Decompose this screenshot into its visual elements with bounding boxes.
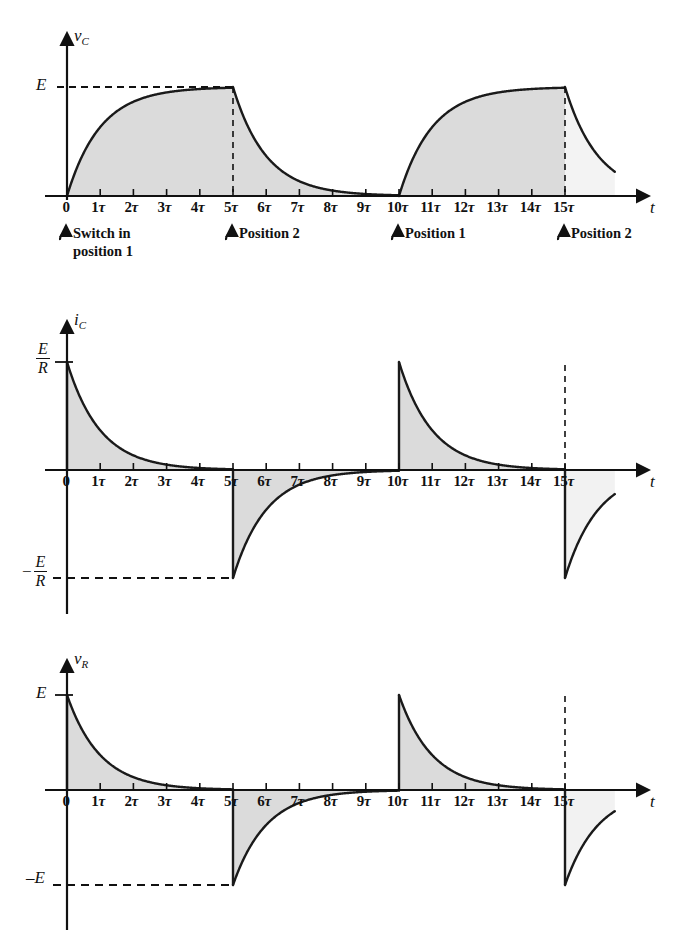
x-tick-label: 12τ <box>453 474 474 489</box>
frac-denominator: R <box>36 359 50 376</box>
panel-vc-level-E-label: E <box>36 76 46 93</box>
x-tick-label: 14τ <box>520 474 541 489</box>
x-tick-label: 2τ <box>124 794 138 809</box>
x-tick-label: 15τ <box>553 200 574 215</box>
x-tick-label: 14τ <box>520 200 541 215</box>
x-tick-label: 9τ <box>357 794 371 809</box>
minus-sign: − <box>22 563 34 580</box>
panel-vr-y-axis-label: vR <box>74 650 88 670</box>
x-tick-label: 0 <box>63 200 70 215</box>
x-tick-label: 6τ <box>257 474 271 489</box>
x-tick-label: 14τ <box>520 794 541 809</box>
annotation-arrow <box>226 226 232 240</box>
x-tick-label: 7τ <box>290 794 304 809</box>
annotation-arrow <box>392 226 398 240</box>
x-tick-label: 5τ <box>224 474 238 489</box>
x-tick-label: 1τ <box>91 794 105 809</box>
annotation-line: Position 2 <box>239 226 300 241</box>
x-tick-label: 15τ <box>553 794 574 809</box>
x-tick-label: 5τ <box>224 200 238 215</box>
panel-vc-area-fill-trailing <box>565 87 615 196</box>
panel-ic-x-axis-label: t <box>650 473 655 490</box>
panel-ic-y-axis-label: iC <box>74 311 86 331</box>
x-tick-label: 10τ <box>387 200 408 215</box>
frac-denominator: R <box>34 572 48 589</box>
x-tick-label: 10τ <box>387 474 408 489</box>
x-tick-label: 9τ <box>357 474 371 489</box>
panel-vc-x-axis-label: t <box>650 199 655 216</box>
x-tick-label: 7τ <box>290 200 304 215</box>
x-tick-label: 15τ <box>553 474 574 489</box>
x-tick-label: 2τ <box>124 474 138 489</box>
panel-vr-area-fill <box>399 695 565 790</box>
x-tick-label: 13τ <box>487 474 508 489</box>
x-tick-label: 8τ <box>324 200 338 215</box>
x-tick-label: 6τ <box>257 794 271 809</box>
x-tick-label: 4τ <box>191 200 205 215</box>
panel-ic-level-neg-E-over-R-label: − E R <box>22 554 47 589</box>
annotation-label: Position 1 <box>405 226 466 241</box>
frac-numerator: E <box>34 554 48 572</box>
panel-vr-level-E-label: E <box>36 684 46 701</box>
x-tick-label: 12τ <box>453 794 474 809</box>
annotation-line: Position 2 <box>571 226 632 241</box>
x-tick-label: 1τ <box>91 200 105 215</box>
panel-vr-area-fill <box>67 695 233 790</box>
panel-ic-area-fill <box>67 362 233 470</box>
x-tick-label: 11τ <box>420 794 440 809</box>
x-tick-label: 11τ <box>420 474 440 489</box>
x-tick-label: 4τ <box>191 794 205 809</box>
x-tick-label: 0 <box>63 474 70 489</box>
x-tick-label: 13τ <box>487 794 508 809</box>
panel-vr-level-neg-E-label: –E <box>26 869 45 886</box>
annotation-line: position 1 <box>73 244 133 259</box>
x-tick-label: 5τ <box>224 794 238 809</box>
x-tick-label: 10τ <box>387 794 408 809</box>
x-tick-label: 9τ <box>357 200 371 215</box>
frac-numerator: E <box>36 341 50 359</box>
x-tick-label: 8τ <box>324 794 338 809</box>
x-tick-label: 11τ <box>420 200 440 215</box>
x-tick-label: 7τ <box>290 474 304 489</box>
x-tick-label: 6τ <box>257 200 271 215</box>
x-tick-label: 3τ <box>158 794 172 809</box>
x-tick-label: 4τ <box>191 474 205 489</box>
x-tick-label: 8τ <box>324 474 338 489</box>
x-tick-label: 3τ <box>158 474 172 489</box>
x-tick-label: 13τ <box>487 200 508 215</box>
x-tick-label: 0 <box>63 794 70 809</box>
annotation-label: Switch inposition 1 <box>73 226 133 258</box>
x-tick-label: 12τ <box>453 200 474 215</box>
figure-root: vC E t 01τ2τ3τ4τ5τ6τ7τ8τ9τ10τ11τ12τ13τ14… <box>0 0 676 942</box>
x-tick-label: 2τ <box>124 200 138 215</box>
annotation-label: Position 2 <box>571 226 632 241</box>
x-tick-label: 1τ <box>91 474 105 489</box>
panel-ic-level-E-over-R-label: E R <box>36 341 50 376</box>
panel-vc-y-axis-label: vC <box>74 27 89 47</box>
panel-vr-x-axis-label: t <box>650 793 655 810</box>
annotation-arrow <box>60 226 66 240</box>
annotation-line: Switch in <box>73 226 133 241</box>
annotation-label: Position 2 <box>239 226 300 241</box>
panel-vc-area-fill <box>67 87 565 196</box>
x-tick-label: 3τ <box>158 200 172 215</box>
annotation-line: Position 1 <box>405 226 466 241</box>
panel-ic-area-fill <box>399 362 565 470</box>
annotation-arrow <box>558 226 564 240</box>
